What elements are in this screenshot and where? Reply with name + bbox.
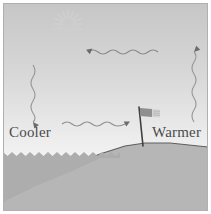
diagram-canvas: [0, 0, 211, 214]
flag-banner: [140, 108, 160, 118]
label-cooler: Cooler: [9, 124, 51, 141]
label-warmer: Warmer: [152, 124, 201, 141]
sea-breeze-diagram: Cooler Warmer: [0, 0, 211, 214]
